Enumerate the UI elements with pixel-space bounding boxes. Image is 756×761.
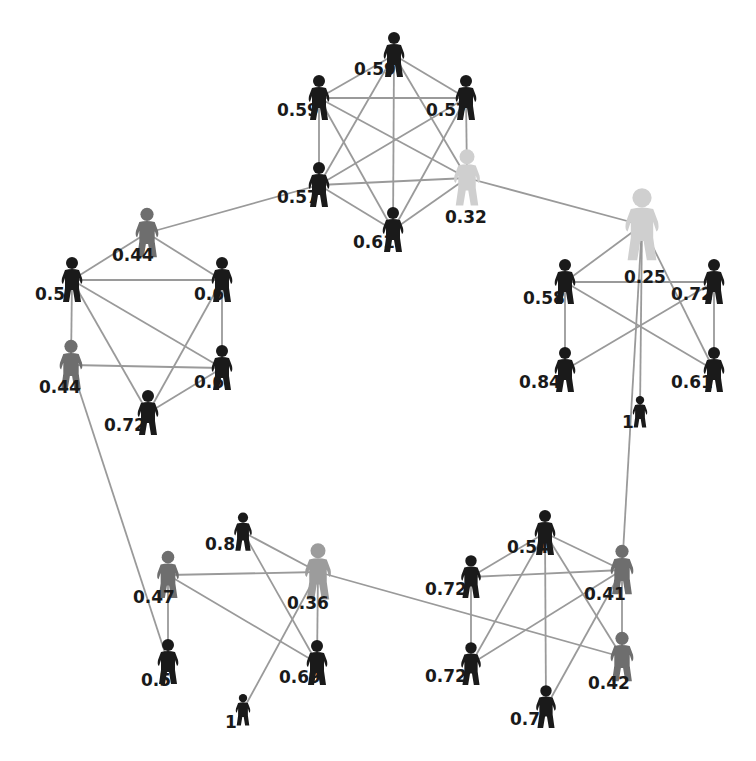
edge-a6-c1 [467, 178, 642, 225]
node-label: 0.6 [194, 372, 224, 392]
node-label: 0.44 [112, 245, 154, 265]
node-label: 0.6 [194, 284, 224, 304]
node-label: 0.72 [104, 415, 146, 435]
node-label: 0.72 [425, 666, 467, 686]
edge-b4-b5 [71, 365, 222, 368]
labels-layer: 0.590.590.570.570.610.320.440.50.60.440.… [35, 59, 713, 732]
node-label: 1 [622, 412, 634, 432]
person-icon [234, 512, 252, 550]
node-label: 0.54 [507, 537, 549, 557]
node-label: 0.25 [624, 267, 666, 287]
edges-layer [71, 55, 714, 710]
person-icon [236, 694, 250, 726]
node-label: 0.5 [141, 670, 171, 690]
node-label: 0.42 [588, 673, 630, 693]
node-label: 0.7 [510, 709, 540, 729]
node-label: 0.5 [35, 284, 65, 304]
edge-a1-a3 [394, 55, 466, 98]
edge-a4-a5 [319, 185, 393, 230]
node-label: 0.59 [277, 100, 319, 120]
edge-d2-d3 [168, 572, 318, 575]
edge-a1-a5 [393, 55, 394, 230]
node-label: 0.59 [354, 59, 396, 79]
node-label: 0.8 [205, 534, 235, 554]
node-label: 0.57 [426, 100, 468, 120]
network-diagram: 0.590.590.570.570.610.320.440.50.60.440.… [0, 0, 756, 761]
person-icon [633, 396, 647, 428]
node-label: 0.57 [277, 187, 319, 207]
node-label: 0.72 [425, 579, 467, 599]
edge-d2-d5 [168, 575, 317, 663]
edge-e2-e3 [471, 570, 622, 577]
node-label: 0.72 [671, 284, 713, 304]
edge-b1-b3 [147, 233, 222, 280]
node-label: 0.58 [523, 288, 565, 308]
node-label: 1 [225, 712, 237, 732]
edge-b2-b6 [72, 280, 148, 413]
node-label: 0.61 [353, 232, 395, 252]
nodes-layer [60, 32, 725, 728]
edge-e1-e6 [545, 533, 546, 707]
node-label: 0.47 [133, 587, 175, 607]
node-label: 0.84 [519, 372, 561, 392]
node-label: 0.36 [287, 593, 329, 613]
node-label: 0.69 [279, 667, 321, 687]
node-label: 0.32 [445, 207, 487, 227]
node-label: 0.41 [584, 584, 626, 604]
person-icon [454, 149, 480, 205]
node-label: 0.61 [671, 372, 713, 392]
node-label: 0.44 [39, 377, 81, 397]
